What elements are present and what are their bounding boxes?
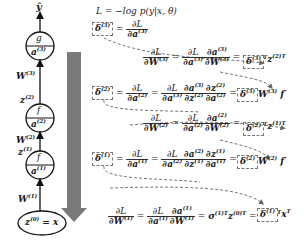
delta1-equation: = ∂L∂a(1) = ∂L∂a(2)∂a(2)∂z(1)∂z(1)∂a(1) …: [116, 150, 237, 169]
dW3-result-tail: ᵀz(2)T: [263, 55, 285, 64]
edge-label-W3: W(3): [16, 72, 35, 81]
delta1-result-delta-box: δ(2): [237, 155, 258, 169]
dW2-result-tail: ᵀz(1)T: [263, 122, 285, 131]
backprop-arrow: [61, 52, 87, 222]
delta1-result-tail: W(2) f′: [258, 157, 287, 166]
delta2-result-tail: W(3) f′: [258, 90, 287, 99]
dW3-result-delta-box: δ(3): [243, 55, 264, 69]
node-1-top: f: [37, 153, 40, 162]
edge-label-z1: z(1): [18, 148, 32, 157]
dW1-result-tail: ᵀxT: [277, 210, 291, 219]
delta2-equation: = ∂L∂a(2) = ∂L∂a(3)∂a(3)∂z(2)∂z(2)∂a(2) …: [116, 84, 237, 103]
dW2-result-delta-box: δ(2): [243, 122, 264, 136]
node-3-top: g: [36, 34, 42, 43]
node-2-bottom: a(2): [31, 120, 46, 129]
dW1-equation: ∂L∂W(1) = ∂L∂a(1)∂a(1)∂W(1) = σ(1)Tz(0)T…: [108, 207, 257, 226]
output-yhat: ŷ: [36, 2, 42, 12]
input-node-label: z(0) = x: [25, 218, 58, 227]
edge-label-W2: W(2): [16, 136, 35, 145]
edge-label-W1: W(1): [18, 195, 37, 204]
node-1-bottom: a(1): [31, 167, 46, 176]
backprop-diagram: ŷ g a(3) W(3) z(2) f a(2) W(2) z(1) f a(…: [0, 0, 304, 247]
delta3-equation: = ∂L∂a(3): [116, 20, 148, 39]
delta3-box: δ(3): [92, 22, 113, 36]
delta1-box: δ(1): [92, 152, 113, 166]
loss-definition: L = −log p(y|x, θ): [96, 7, 177, 16]
delta2-box: δ(2): [92, 86, 113, 100]
edge-label-z2: z(2): [20, 96, 34, 105]
dashed-arrow-delta1-to-dW1: [110, 187, 262, 203]
dW3-equation: ∂L∂W(3) = ∂L∂a(3)∂a(3)∂W(3) =: [143, 48, 240, 67]
delta2-result-delta-box: δ(3): [237, 88, 258, 102]
node-3-bottom: a(3): [31, 48, 46, 57]
dW2-equation: ∂L∂W(2) = ∂L∂a(2)∂a(2)∂W(2) =: [143, 114, 240, 133]
node-2-top: f: [37, 106, 40, 115]
dW1-result-delta-box: δ(1): [257, 208, 278, 222]
